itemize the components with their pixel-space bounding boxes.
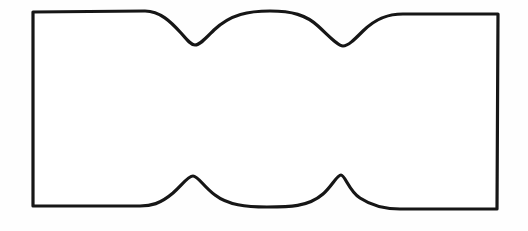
wavy-rectangle-outline-path — [33, 11, 498, 209]
figure-canvas — [0, 0, 528, 231]
wavy-rectangle-drawing — [0, 0, 528, 231]
